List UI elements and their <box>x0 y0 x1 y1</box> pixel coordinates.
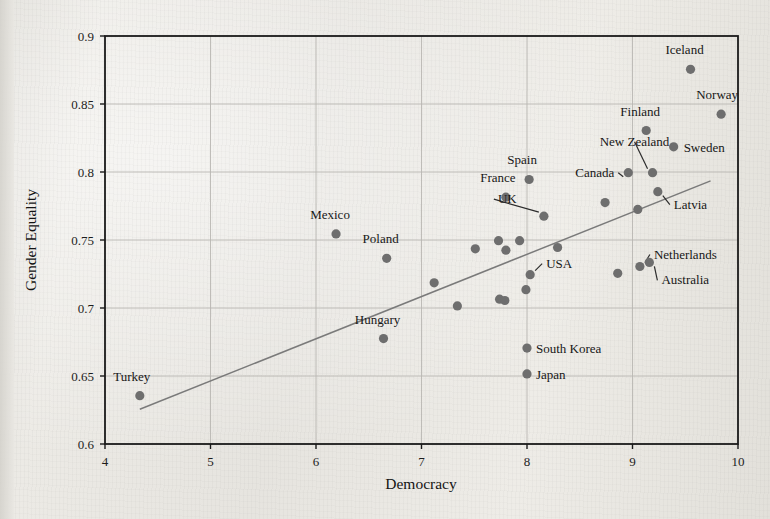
data-point-marker <box>553 243 562 252</box>
data-point-marker <box>653 187 662 196</box>
point-label: Australia <box>661 272 709 287</box>
grid-lines <box>105 36 738 444</box>
data-point-marker <box>430 278 439 287</box>
y-tick-label: 0.9 <box>78 29 94 44</box>
point-labels: TurkeyMexicoPolandHungaryFranceSpainUKUS… <box>113 42 738 383</box>
y-tick-label: 0.65 <box>71 369 94 384</box>
tick-labels: 456789100.60.650.70.750.80.850.9 <box>71 29 744 470</box>
data-point-marker <box>686 65 695 74</box>
y-axis-title: Gender Equality <box>22 189 39 291</box>
y-tick-label: 0.8 <box>78 165 94 180</box>
data-point-marker <box>135 391 144 400</box>
label-leader-line <box>654 266 657 280</box>
data-point-marker <box>515 236 524 245</box>
data-point-marker <box>717 110 726 119</box>
x-axis-title: Democracy <box>385 475 457 492</box>
data-point-marker <box>522 369 531 378</box>
data-point-marker <box>669 142 678 151</box>
y-tick-label: 0.85 <box>71 97 94 112</box>
x-tick-label: 4 <box>102 454 109 469</box>
data-point-marker <box>600 198 609 207</box>
point-label: Norway <box>696 87 738 102</box>
chart-canvas: TurkeyMexicoPolandHungaryFranceSpainUKUS… <box>0 0 770 519</box>
data-point-marker <box>645 258 654 267</box>
point-label: Netherlands <box>654 247 717 262</box>
data-point-marker <box>382 254 391 263</box>
point-label: Latvia <box>674 197 707 212</box>
data-point-marker <box>648 168 657 177</box>
point-label: South Korea <box>536 341 602 356</box>
point-label: USA <box>546 256 573 271</box>
data-point-marker <box>633 205 642 214</box>
x-tick-label: 5 <box>207 454 214 469</box>
point-label: Iceland <box>665 42 704 57</box>
label-leader-line <box>618 173 623 177</box>
data-point-marker <box>500 296 509 305</box>
data-point-marker <box>494 236 503 245</box>
data-point-marker <box>453 301 462 310</box>
data-point-marker <box>635 262 644 271</box>
data-point-marker <box>471 244 480 253</box>
trend-line <box>140 181 711 409</box>
x-tick-label: 9 <box>629 454 636 469</box>
point-label: Turkey <box>113 369 151 384</box>
point-label: UK <box>498 191 517 206</box>
x-tick-label: 7 <box>418 454 425 469</box>
x-tick-label: 8 <box>524 454 531 469</box>
data-point-marker <box>526 270 535 279</box>
y-tick-label: 0.6 <box>78 437 95 452</box>
point-label: Japan <box>536 367 566 382</box>
y-tick-label: 0.7 <box>78 301 95 316</box>
point-label: New Zealand <box>600 134 670 149</box>
point-label: Canada <box>575 165 614 180</box>
data-point-marker <box>501 246 510 255</box>
point-label: Sweden <box>684 140 726 155</box>
data-point-marker <box>624 168 633 177</box>
point-label: Spain <box>507 152 537 167</box>
y-tick-label: 0.75 <box>71 233 94 248</box>
x-tick-label: 10 <box>732 454 745 469</box>
point-label: Mexico <box>310 207 350 222</box>
point-label: Hungary <box>355 312 401 327</box>
point-label: France <box>480 170 516 185</box>
x-tick-label: 6 <box>313 454 320 469</box>
data-point-marker <box>331 229 340 238</box>
data-point-marker <box>521 285 530 294</box>
scatter-plot-figure: TurkeyMexicoPolandHungaryFranceSpainUKUS… <box>0 0 770 519</box>
data-point-marker <box>539 212 548 221</box>
data-point-marker <box>522 344 531 353</box>
label-leader-line <box>535 264 542 271</box>
data-point-marker <box>613 269 622 278</box>
data-point-marker <box>379 334 388 343</box>
point-label: Poland <box>363 231 400 246</box>
regression-line <box>140 181 711 409</box>
point-label: Finland <box>620 104 660 119</box>
data-point-marker <box>525 175 534 184</box>
